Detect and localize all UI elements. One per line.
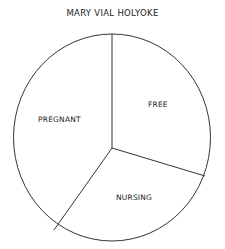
slice-label-nursing: NURSING bbox=[116, 193, 152, 202]
pie-chart bbox=[0, 0, 225, 249]
slice-label-pregnant: PREGNANT bbox=[38, 115, 81, 124]
slice-label-free: FREE bbox=[148, 100, 168, 109]
